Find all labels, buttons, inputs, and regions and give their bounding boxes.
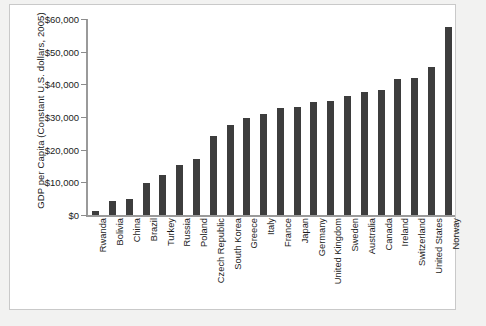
y-axis-tick-mark [81, 182, 87, 183]
x-axis-labels: RwandaBoliviaChinaBrazilTurkeyRussiaPola… [88, 218, 457, 318]
x-axis-line [86, 215, 455, 217]
x-axis-label: Turkey [167, 218, 175, 246]
y-axis-tick-mark [81, 19, 87, 20]
bar-series [88, 19, 457, 215]
bar [260, 114, 267, 215]
bar [126, 199, 133, 215]
x-axis-label: Greece [250, 218, 258, 249]
x-axis-label: Switzerland [418, 218, 426, 266]
y-axis-tick-label: $30,000 [45, 112, 79, 123]
y-axis-tick-label: $0 [68, 210, 79, 221]
x-axis-label: Bolivia [116, 218, 124, 245]
x-axis-label: Norway [452, 218, 460, 250]
y-axis-tick-mark [81, 117, 87, 118]
chart-figure-frame: GDP per Capita (Constant U.S. dollars, 2… [9, 4, 456, 310]
bar [344, 96, 351, 215]
bar [394, 79, 401, 215]
x-axis-label: France [284, 218, 292, 247]
bar [176, 165, 183, 215]
x-axis-label: South Korea [234, 218, 242, 270]
page-background: GDP per Capita (Constant U.S. dollars, 2… [0, 0, 486, 326]
x-axis-label: Sweden [351, 218, 359, 252]
x-axis-label: Canada [385, 218, 393, 251]
x-axis-label: Italy [267, 218, 275, 235]
y-axis-tick-label: $20,000 [45, 144, 79, 155]
y-axis-tick-label: $10,000 [45, 177, 79, 188]
bar [294, 107, 301, 215]
bar [159, 175, 166, 216]
bar [361, 92, 368, 215]
y-axis-tick-label: $40,000 [45, 79, 79, 90]
bar [243, 118, 250, 215]
x-axis-label: Russia [183, 218, 191, 246]
x-axis-label: Rwanda [99, 218, 107, 252]
x-axis-label: Poland [200, 218, 208, 247]
y-axis-tick-mark [81, 84, 87, 85]
x-axis-label: Brazil [150, 218, 158, 241]
bar [428, 67, 435, 215]
bar [310, 102, 317, 215]
bar [327, 101, 334, 215]
x-axis-label: Australia [368, 218, 376, 254]
bar [378, 90, 385, 215]
bar [109, 201, 116, 215]
y-axis-tick-label: $50,000 [45, 46, 79, 57]
bar [193, 159, 200, 215]
x-axis-label: Germany [318, 218, 326, 256]
bar [411, 78, 418, 215]
y-axis-tick-mark [81, 150, 87, 151]
bar [445, 27, 452, 215]
bar [210, 136, 217, 215]
y-axis-tick-label: $60,000 [45, 14, 79, 25]
x-axis-label: China [133, 218, 141, 242]
bar [92, 211, 99, 215]
plot-area: $0$10,000$20,000$30,000$40,000$50,000$60… [86, 19, 457, 220]
x-axis-label: United States [435, 218, 443, 274]
y-axis-tick-mark [81, 52, 87, 53]
bar [277, 108, 284, 215]
y-axis-tick-mark [81, 215, 87, 216]
x-axis-label: Ireland [401, 218, 409, 246]
x-axis-label: Czech Republic [217, 218, 225, 283]
bar [143, 183, 150, 215]
x-axis-label: Japan [301, 218, 309, 243]
x-axis-label: United Kingdom [334, 218, 342, 284]
bar [227, 125, 234, 215]
